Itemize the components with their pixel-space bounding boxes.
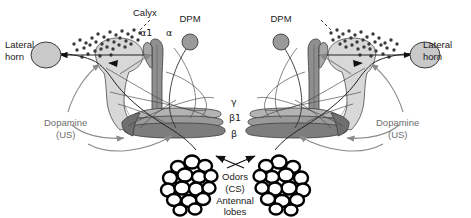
dopamine-label-right-line1: Dopamine <box>376 117 419 128</box>
beta1-label: β1 <box>229 112 241 123</box>
lateral-horn-label-left-line1: Lateral <box>5 39 34 50</box>
antennal-label-line2: lobes <box>224 206 247 217</box>
diagram-canvas: Lateral horn Calyx α1 α DPM Dopamine (US… <box>0 0 471 218</box>
alpha-label-left: α <box>166 27 172 38</box>
dpm-soma-left <box>182 34 198 50</box>
odors-label-line1: Odors <box>222 171 248 182</box>
dpm-label-right: DPM <box>270 13 291 24</box>
beta-label: β <box>231 128 237 139</box>
lateral-horn-left <box>31 42 61 68</box>
calyx-label: Calyx <box>133 7 157 18</box>
mushroom-body-diagram: Lateral horn Calyx α1 α DPM Dopamine (US… <box>0 0 471 218</box>
dopamine-label-left-line1: Dopamine <box>44 117 87 128</box>
dopamine-label-right-line2: (US) <box>388 129 408 140</box>
alpha1-label-left: α1 <box>140 27 152 38</box>
antennal-label-line1: Antennal <box>216 195 254 206</box>
lateral-horn-label-right-line1: Lateral <box>423 39 452 50</box>
lateral-horn-label-right-line2: horn <box>423 51 442 62</box>
dpm-label-left: DPM <box>179 13 200 24</box>
lateral-horn-label-left-line2: horn <box>5 51 24 62</box>
odors-label-line2: (CS) <box>225 183 245 194</box>
dpm-soma-right <box>273 34 289 50</box>
gamma-label: γ <box>231 96 237 107</box>
dopamine-label-left-line2: (US) <box>56 129 76 140</box>
